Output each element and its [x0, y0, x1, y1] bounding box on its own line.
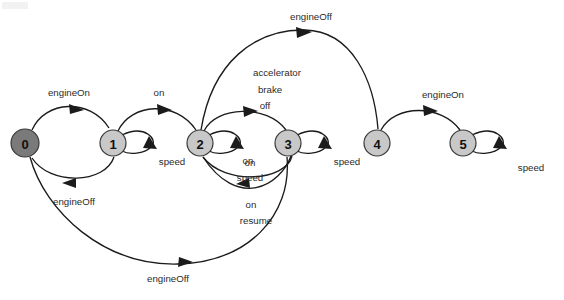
self-loop-node-2: on [209, 131, 255, 167]
state-node-5[interactable]: 5 [450, 130, 476, 156]
edge-label-brake: brake [258, 84, 282, 95]
edge-engine-on-0-to-1: engineOn [32, 87, 109, 130]
state-node-label: 1 [109, 137, 116, 152]
edge-path [381, 111, 460, 131]
edge-label-on-1-2: on [154, 87, 165, 98]
corner-artifact [2, 2, 28, 9]
edge-path [32, 157, 114, 178]
arrowhead-icon [296, 27, 312, 38]
arrowhead-icon [230, 136, 244, 149]
edge-engine-off-1-to-0: engineOff [32, 157, 114, 207]
self-loop-label-node-3: speed [334, 156, 360, 167]
edge-label-on-resume-on: on [246, 199, 257, 210]
state-node-1[interactable]: 1 [100, 130, 126, 156]
self-loop-label-node-5: speed [518, 162, 544, 173]
edge-label-speed-3-2: speed [237, 172, 263, 183]
arrowhead-icon [243, 106, 258, 117]
edge-label-engine-off-3-0: engineOff [147, 273, 189, 284]
edge-path [118, 109, 196, 131]
state-node-label: 4 [373, 137, 381, 152]
arrowhead-icon [493, 136, 507, 149]
edge-accelerator-brake-off-2-to-3: accelerator brake off [204, 67, 302, 131]
arrowhead-icon [143, 136, 157, 149]
edge-path [201, 30, 378, 130]
edge-label-engine-off-2-4: engineOff [290, 11, 332, 22]
arrowhead-icon [178, 257, 193, 267]
state-machine-canvas: engineOn engineOff on accelerator brake … [0, 0, 564, 300]
arrowhead-icon [157, 104, 172, 115]
state-node-0[interactable]: 0 [11, 129, 39, 157]
state-node-3[interactable]: 3 [275, 130, 301, 156]
self-loop-node-5: speed [472, 131, 544, 172]
state-node-label: 2 [196, 137, 203, 152]
state-node-2[interactable]: 2 [187, 130, 213, 156]
arrowhead-icon [69, 104, 84, 114]
state-node-label: 5 [459, 137, 466, 152]
edge-label-engine-off-1-0: engineOff [53, 196, 95, 207]
state-node-label: 3 [284, 137, 291, 152]
state-node-4[interactable]: 4 [364, 130, 390, 156]
self-loop-node-3: speed [297, 131, 360, 166]
self-loop-label-node-1: speed [159, 156, 185, 167]
state-machine-diagram: engineOn engineOff on accelerator brake … [0, 0, 564, 300]
self-loop-label-node-2: on [245, 157, 256, 168]
arrowhead-icon [423, 105, 438, 116]
edge-label-engine-on-4-5: engineOn [422, 89, 464, 100]
arrowhead-icon [318, 136, 332, 149]
edge-label-accelerator: accelerator [253, 67, 302, 78]
self-loop-node-1: speed [122, 131, 185, 166]
edge-on-1-to-2: on [118, 87, 196, 131]
edge-label-off: off [260, 100, 271, 111]
arrowhead-icon [62, 178, 76, 188]
edge-engine-on-4-to-5: engineOn [381, 89, 464, 130]
edge-label-engine-on-0-1: engineOn [48, 87, 90, 98]
state-node-label: 0 [21, 137, 28, 152]
